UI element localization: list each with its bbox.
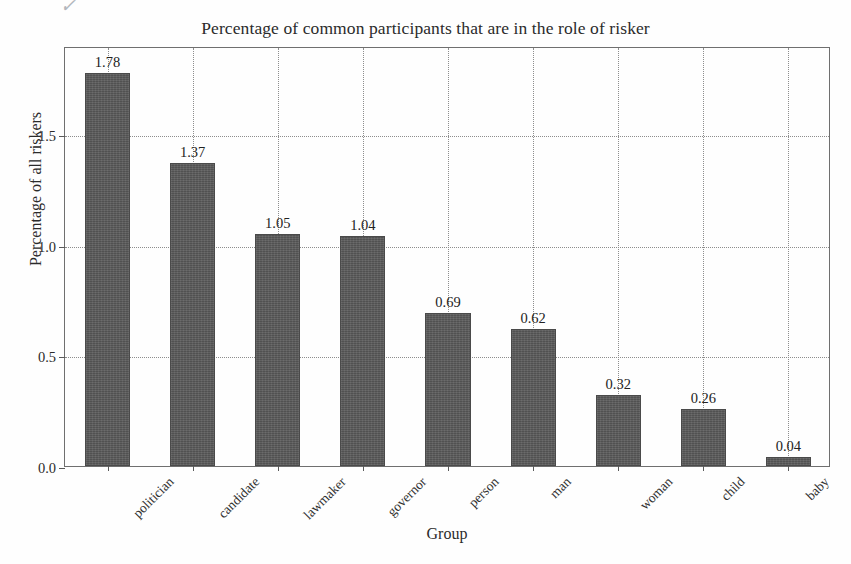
x-axis-tick-label: politician [129, 474, 176, 521]
bar-value-label: 0.04 [776, 438, 801, 455]
bar-value-label: 0.62 [520, 310, 545, 327]
bar-value-label: 1.04 [350, 217, 375, 234]
x-axis-tick-label: baby [803, 474, 833, 504]
x-axis-tick-mark [363, 466, 364, 471]
bar-value-label: 0.69 [435, 294, 460, 311]
x-axis-tick-label: person [466, 474, 503, 511]
x-axis-tick-label: candidate [215, 474, 263, 522]
bar[interactable]: 0.32 [596, 395, 641, 466]
x-axis-tick-mark [703, 466, 704, 471]
bar-value-label: 0.26 [691, 390, 716, 407]
y-axis-title: Percentage of all riskers [27, 29, 45, 349]
bar-series: 1.781.371.051.040.690.620.320.260.04 [65, 48, 829, 466]
bar[interactable]: 1.05 [255, 234, 300, 466]
x-axis-tick-mark [533, 466, 534, 471]
bar[interactable]: 1.78 [85, 73, 130, 466]
x-axis-tick-label: man [547, 474, 575, 502]
bar[interactable]: 1.37 [170, 163, 215, 466]
bar[interactable]: 0.26 [681, 409, 726, 466]
scan-artifact-glyph: ✓ [60, 0, 74, 10]
bar-value-label: 1.05 [265, 215, 290, 232]
x-axis-tick-label: lawmaker [300, 474, 349, 523]
bar[interactable]: 0.62 [511, 329, 556, 466]
y-axis-tick-label: 0.5 [38, 349, 56, 366]
bar[interactable]: 0.69 [425, 313, 470, 466]
bar-value-label: 1.78 [95, 54, 120, 71]
x-axis-title: Group [64, 525, 830, 543]
x-axis-tick-label: child [718, 474, 748, 504]
bar-value-label: 1.37 [180, 144, 205, 161]
x-axis-tick-mark [448, 466, 449, 471]
x-axis-tick-label: governor [384, 474, 430, 520]
x-axis-tick-mark [278, 466, 279, 471]
chart-page: ✓ Percentage of common participants that… [0, 0, 851, 564]
x-axis-tick-mark [788, 466, 789, 471]
bar[interactable]: 1.04 [340, 236, 385, 466]
bar-value-label: 0.32 [606, 376, 631, 393]
x-axis-tick-mark [193, 466, 194, 471]
x-axis-tick-mark [108, 466, 109, 471]
plot-area: 0.00.51.01.5 1.781.371.051.040.690.620.3… [64, 47, 830, 467]
chart-title: Percentage of common participants that a… [0, 18, 851, 39]
y-axis-tick-mark [59, 468, 65, 469]
bar[interactable]: 0.04 [766, 457, 811, 466]
y-axis-tick-label: 0.0 [38, 460, 56, 477]
x-axis-tick-label: woman [637, 474, 676, 513]
x-axis-tick-mark [618, 466, 619, 471]
